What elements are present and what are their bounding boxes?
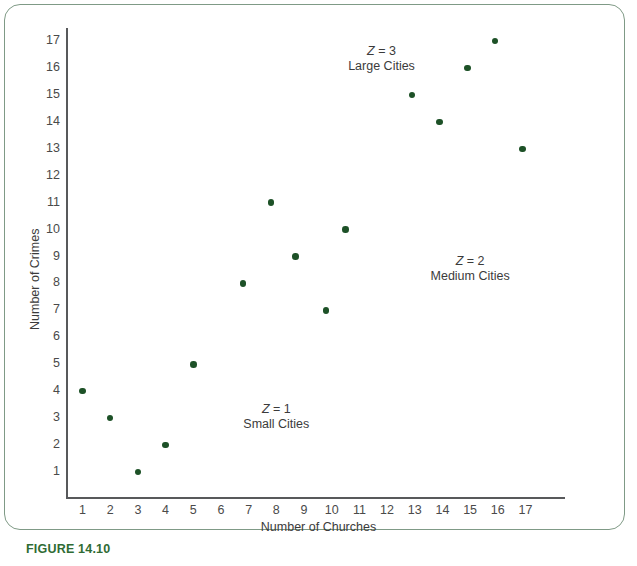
y-tick-label: 12 (36, 168, 60, 182)
data-point (107, 415, 114, 422)
x-tick-label: 12 (375, 503, 399, 517)
x-axis-line (66, 497, 565, 499)
caption-frame-mask (4, 535, 12, 566)
data-point (79, 388, 86, 395)
x-tick-label: 4 (154, 503, 178, 517)
y-tick-label: 17 (36, 33, 60, 47)
cluster-annotation-z1: Z = 1Small Cities (243, 402, 309, 432)
data-point (519, 146, 526, 153)
y-tick-label: 5 (36, 356, 60, 370)
cluster-name: Large Cities (348, 59, 415, 74)
x-tick-label: 9 (292, 503, 316, 517)
x-tick-label: 6 (209, 503, 233, 517)
x-tick-label: 8 (264, 503, 288, 517)
cluster-z-value: Z = 3 (348, 44, 415, 59)
data-point (323, 307, 330, 314)
data-point (190, 361, 197, 368)
x-tick-label: 10 (320, 503, 344, 517)
x-axis-title: Number of Churches (0, 520, 637, 534)
y-tick-label: 15 (36, 87, 60, 101)
y-tick-label: 11 (36, 195, 60, 209)
cluster-z-value: Z = 2 (431, 254, 510, 269)
y-tick-label: 1 (36, 464, 60, 478)
y-tick-label: 3 (36, 410, 60, 424)
cluster-name: Medium Cities (431, 269, 510, 284)
y-axis-line (66, 28, 68, 498)
x-tick-label: 13 (403, 503, 427, 517)
data-point (409, 92, 416, 99)
x-tick-label: 17 (514, 503, 538, 517)
x-tick-label: 7 (237, 503, 261, 517)
data-point (342, 226, 349, 233)
x-tick-label: 11 (347, 503, 371, 517)
x-tick-label: 3 (126, 503, 150, 517)
data-point (135, 469, 142, 476)
y-tick-label: 6 (36, 329, 60, 343)
cluster-name: Small Cities (243, 417, 309, 432)
data-point (162, 442, 169, 449)
cluster-annotation-z2: Z = 2Medium Cities (431, 254, 510, 284)
x-tick-label: 1 (71, 503, 95, 517)
data-point (464, 65, 471, 72)
data-point (436, 119, 443, 126)
data-point (292, 253, 299, 260)
x-tick-label: 5 (181, 503, 205, 517)
data-point (240, 280, 247, 287)
y-tick-label: 13 (36, 141, 60, 155)
x-tick-label: 2 (98, 503, 122, 517)
y-tick-label: 14 (36, 114, 60, 128)
y-axis-title: Number of Crimes (28, 229, 42, 330)
cluster-z-value: Z = 1 (243, 402, 309, 417)
cluster-annotation-z3: Z = 3Large Cities (348, 44, 415, 74)
scatter-plot: 1234567891011121314151617 12345678910111… (0, 0, 637, 566)
data-point (492, 38, 499, 45)
x-tick-label: 14 (430, 503, 454, 517)
x-tick-label: 16 (486, 503, 510, 517)
data-point (268, 199, 275, 206)
figure-caption: FIGURE 14.10 (26, 542, 110, 556)
y-tick-label: 16 (36, 60, 60, 74)
x-tick-label: 15 (458, 503, 482, 517)
y-tick-label: 4 (36, 383, 60, 397)
y-tick-label: 2 (36, 437, 60, 451)
